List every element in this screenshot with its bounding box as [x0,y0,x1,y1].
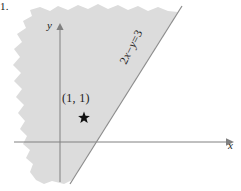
exercise-number: 1. [0,1,9,12]
test-point-label: (1, 1) [62,92,90,104]
x-axis-label: x [228,140,233,151]
figure-graphic [0,0,241,191]
figure-container: 1. y x (1, 1) 2x−y=3 [0,0,241,191]
shaded-region-path [13,4,178,184]
shaded-solution-region [13,4,178,184]
y-axis-label: y [47,20,52,31]
